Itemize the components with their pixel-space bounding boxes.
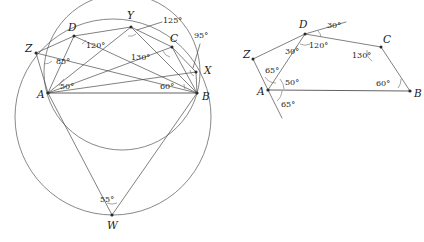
r-angle-label-30-right: 30° [327,21,341,30]
r-angle-label-60: 60° [376,79,390,88]
r-angle-label-30-left: 30° [285,47,299,56]
r-arc-60 [398,79,401,88]
r-angle-label-130: 130° [352,51,371,60]
vertex-dot-y [130,26,133,29]
r-angle-label-65-upper: 65° [265,66,279,75]
point-label-y: Y [127,9,135,21]
r-point-label-z: Z [242,48,251,60]
r-angle-label-50: 50° [285,78,299,87]
segment-b-w [112,93,197,215]
r-arc-50 [280,79,284,89]
right-diagram: Z D C A B 30° 30° 120° 130° 65° 50° 65° … [242,18,422,118]
r-angle-label-65-lower: 65° [281,100,295,109]
point-label-b: B [201,90,210,102]
outer-circle [15,19,211,215]
arc-angle-b-60 [184,84,185,89]
segment-b-x [196,72,197,93]
r-segment-a-b [268,90,410,91]
r-vertex-dot-c [380,46,383,49]
vertex-dot-x [195,71,198,74]
r-vertex-dot-b [408,89,411,92]
point-label-x: X [203,64,212,76]
point-label-w: W [107,219,119,231]
point-label-d: D [67,21,77,33]
vertex-dot-w [110,213,113,216]
geometry-figure: Z D Y C X A B W 85° 120° 125° 130° 95° 5… [0,0,424,242]
angle-label-130: 130° [131,53,150,62]
segment-b-c [172,47,197,93]
point-label-z: Z [24,42,33,54]
angle-label-50: 50° [60,82,74,91]
segment-d-y [74,27,131,36]
vertex-dot-z [35,52,38,55]
r-vertex-dot-d [304,33,307,36]
vertex-dot-a [46,91,49,94]
angle-label-95: 95° [194,31,208,40]
vertex-dot-c [171,46,174,49]
vertex-dot-b [195,91,198,94]
point-label-c: C [170,32,178,44]
leader-95 [193,44,200,68]
arc-angle-y-125 [128,34,136,36]
angle-label-120: 120° [86,41,105,50]
r-point-label-b: B [413,87,422,99]
angle-label-55: 55° [100,195,114,204]
angle-label-85: 85° [56,57,70,66]
arc-angle-x-95 [190,70,194,76]
r-angle-label-120: 120° [309,41,328,50]
r-segment-a-extension [268,90,282,118]
r-point-label-d: D [298,18,308,30]
segment-z-d [36,36,74,53]
left-diagram: Z D Y C X A B W 85° 120° 125° 130° 95° 5… [15,0,212,231]
segment-a-z [36,53,48,93]
r-vertex-dot-a [266,88,269,91]
figure-canvas: Z D Y C X A B W 85° 120° 125° 130° 95° 5… [0,0,424,242]
angle-label-125: 125° [163,16,182,25]
r-point-label-c: C [383,33,391,45]
arc-angle-c-130 [163,51,170,57]
vertex-dot-d [73,35,76,38]
arc-angle-z-85 [44,61,52,64]
r-point-label-a: A [256,85,265,97]
r-vertex-dot-z [252,58,255,61]
point-label-a: A [36,88,45,100]
angle-label-60: 60° [160,82,174,91]
